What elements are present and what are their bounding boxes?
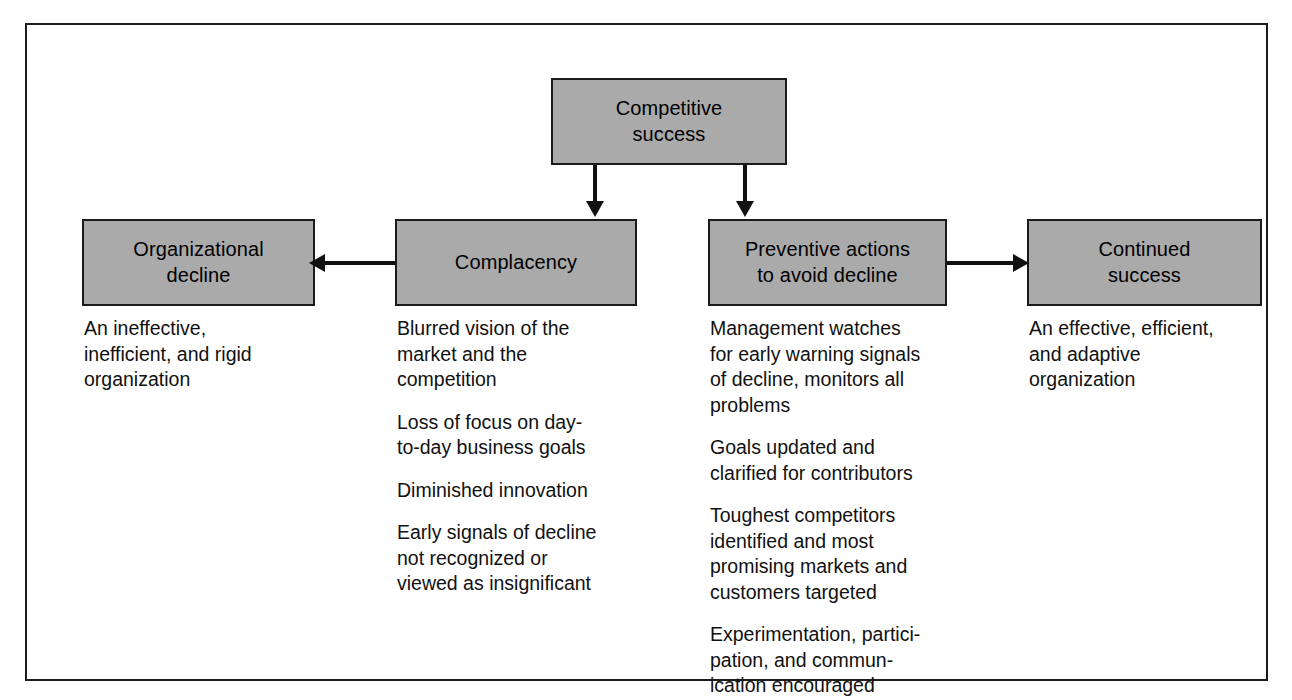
node-competitive-success-label: Competitive success [616, 96, 723, 147]
diagram-frame: Competitive success Organizational decli… [25, 23, 1268, 681]
node-complacency: Complacency [395, 219, 637, 306]
list-item: Toughest competitors identified and most… [710, 503, 972, 605]
text-column-continued-success: An effective, efficient, and adaptive or… [1029, 316, 1281, 393]
list-item: Loss of focus on day- to-day business go… [397, 410, 652, 461]
arrow-down-icon-preventive-actions [736, 201, 754, 217]
list-item: Experimentation, partici- pation, and co… [710, 622, 972, 699]
node-competitive-success: Competitive success [551, 78, 787, 165]
connector-competitive-success-to-preventive-actions [743, 165, 747, 203]
list-item: Blurred vision of the market and the com… [397, 316, 652, 393]
list-item: Early signals of decline not recognized … [397, 520, 652, 597]
connector-competitive-success-to-complacency [593, 165, 597, 203]
text-column-organizational-decline: An ineffective, inefficient, and rigid o… [84, 316, 334, 393]
arrow-right-icon-continued-success [1013, 254, 1029, 272]
list-item: Diminished innovation [397, 478, 652, 504]
list-item: An ineffective, inefficient, and rigid o… [84, 316, 334, 393]
arrow-down-icon-complacency [586, 201, 604, 217]
text-column-complacency: Blurred vision of the market and the com… [397, 316, 652, 597]
text-column-preventive-actions: Management watches for early warning sig… [710, 316, 972, 699]
node-complacency-label: Complacency [455, 250, 577, 276]
arrow-left-icon-organizational-decline [309, 254, 325, 272]
node-preventive-actions: Preventive actions to avoid decline [708, 219, 947, 306]
node-organizational-decline-label: Organizational decline [133, 237, 263, 288]
node-organizational-decline: Organizational decline [82, 219, 315, 306]
node-preventive-actions-label: Preventive actions to avoid decline [745, 237, 910, 288]
list-item: An effective, efficient, and adaptive or… [1029, 316, 1281, 393]
list-item: Goals updated and clarified for contribu… [710, 435, 972, 486]
node-continued-success-label: Continued success [1098, 237, 1190, 288]
list-item: Management watches for early warning sig… [710, 316, 972, 418]
connector-complacency-to-organizational-decline [323, 261, 395, 265]
node-continued-success: Continued success [1027, 219, 1262, 306]
connector-preventive-actions-to-continued-success [947, 261, 1017, 265]
diagram-canvas: Competitive success Organizational decli… [0, 0, 1292, 700]
